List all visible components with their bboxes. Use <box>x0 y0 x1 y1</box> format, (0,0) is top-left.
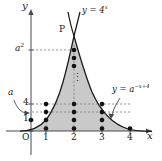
lattice-dot <box>44 102 49 107</box>
lattice-dot <box>128 126 133 131</box>
lattice-dot <box>72 48 77 53</box>
rising-equation-exponent: x <box>105 4 108 10</box>
y-axis-label: y <box>22 1 28 11</box>
x-tick-label-4: 4 <box>127 133 133 142</box>
falling-equation-exponent: −x+4 <box>134 83 149 89</box>
lattice-dot <box>29 118 34 123</box>
y-tick-label-4: 4 <box>23 98 29 107</box>
vertical-ellipsis: ⋮ <box>72 72 83 83</box>
y-axis-arrow <box>28 9 33 15</box>
curve-label-rising: y = 4x <box>82 5 108 14</box>
lattice-dot <box>72 110 77 115</box>
lattice-dot <box>72 56 77 61</box>
curve-label-falling: y = a−x+4 <box>112 84 150 93</box>
lattice-dot <box>72 64 77 69</box>
lattice-dot <box>100 118 105 123</box>
lattice-dot <box>100 102 105 107</box>
x-tick-label-1: 1 <box>43 133 49 142</box>
x-axis-label: x <box>147 131 153 141</box>
lattice-dot <box>72 118 77 123</box>
point-p-label: P <box>59 25 65 34</box>
a-squared-exponent: 2 <box>20 42 24 48</box>
origin-label: O <box>22 133 29 142</box>
lattice-dot <box>44 118 49 123</box>
lattice-dot <box>100 110 105 115</box>
falling-equation-base: y = a <box>112 84 134 94</box>
lattice-dot <box>72 102 77 107</box>
x-tick-label-2: 2 <box>71 133 77 142</box>
lattice-dot <box>44 126 49 131</box>
y-tick-label-a-squared: a2 <box>15 43 24 53</box>
lattice-dot <box>72 126 77 131</box>
math-figure: y x O 1 2 3 4 1 4 a a2 P y = 4x y = a−x+… <box>0 0 162 161</box>
rising-equation-base: y = 4 <box>82 5 105 15</box>
y-tick-label-a: a <box>8 88 13 97</box>
falling-curve-pointer <box>108 98 120 119</box>
lattice-dot <box>100 126 105 131</box>
y-tick-label-1: 1 <box>23 114 29 123</box>
x-tick-label-3: 3 <box>99 133 105 142</box>
lattice-dot <box>44 110 49 115</box>
